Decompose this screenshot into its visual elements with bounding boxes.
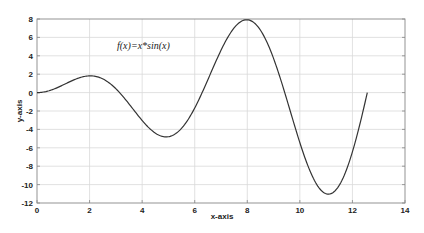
x-tick-label: 0 — [35, 206, 40, 215]
y-axis-ticks: 86420-2-4-6-8-10-12 — [21, 15, 405, 208]
y-tick-label: 0 — [29, 89, 34, 98]
function-annotation: f(x)=x*sin(x) — [117, 40, 171, 52]
data-line-x-sin-x — [37, 20, 367, 194]
grid-lines — [37, 19, 405, 203]
x-tick-label: 10 — [295, 206, 304, 215]
y-tick-label: -2 — [26, 107, 34, 116]
x-tick-label: 12 — [348, 206, 357, 215]
y-tick-label: 8 — [29, 15, 34, 24]
y-tick-label: -8 — [26, 162, 34, 171]
x-tick-label: 8 — [245, 206, 250, 215]
y-tick-label: -4 — [26, 125, 34, 134]
y-tick-label: 6 — [29, 33, 34, 42]
x-tick-label: 4 — [140, 206, 145, 215]
y-tick-label: -12 — [21, 199, 33, 208]
x-tick-label: 14 — [401, 206, 410, 215]
line-chart: 02468101214 86420-2-4-6-8-10-12 f(x)=x*s… — [0, 0, 424, 233]
y-tick-label: 4 — [29, 52, 34, 61]
x-tick-label: 2 — [87, 206, 92, 215]
x-axis-label: x-axis — [211, 212, 234, 221]
y-axis-label: y-axis — [15, 99, 24, 122]
y-tick-label: 2 — [29, 70, 34, 79]
y-tick-label: -10 — [21, 181, 33, 190]
x-tick-label: 6 — [192, 206, 197, 215]
y-tick-label: -6 — [26, 144, 34, 153]
